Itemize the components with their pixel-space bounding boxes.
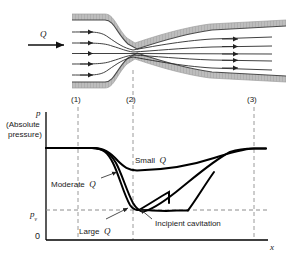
station-dashed-lines [78,70,254,240]
curve-large-q-rise [188,172,214,210]
y-tick-vapor-pressure: pv [30,203,37,222]
x-axis-symbol: x [270,243,274,253]
annotation-small-q-symbol: Q [159,155,166,165]
y-axis-symbol: p [36,109,41,119]
annotation-small-q: Small Q [135,149,166,167]
annotation-large-q-symbol: Q [104,226,111,236]
annotation-large-q: Large Q [79,220,110,238]
y-axis-caption-line2: pressure) [8,131,42,140]
streamline-upper-inner [72,43,272,52]
annotation-moderate-q-text: Moderate [51,180,85,189]
annotation-incipient-cavitation: Incipient cavitation [155,220,221,229]
streamline-center [72,54,272,55]
y-tick-vapor-pressure-subscript: v [35,216,37,222]
station-label-1: (1) [71,96,81,105]
nozzle-diagram [28,14,286,88]
annotation-large-q-text: Large [79,227,99,236]
annotation-moderate-q: Moderate Q [51,173,96,191]
inlet-flow-label: Q [40,30,47,40]
cavitation-pressure-figure: Q (1) (2) (3) p (Absolute pressure) pv 0… [0,0,286,265]
station-label-2: (2) [126,96,136,105]
y-axis-caption-line1: (Absolute [6,121,40,130]
streamline-lower-inner [72,55,272,64]
station-label-3: (3) [247,96,257,105]
y-tick-zero: 0 [35,232,40,242]
moderate-q-leader [101,172,117,178]
annotation-moderate-q-symbol: Q [89,179,96,189]
annotation-small-q-text: Small [135,156,155,165]
